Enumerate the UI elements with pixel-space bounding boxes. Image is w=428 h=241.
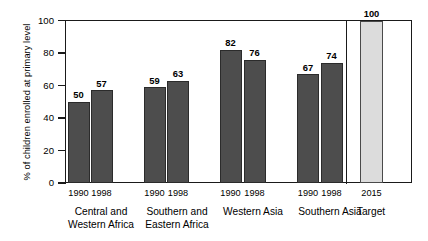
bar bbox=[68, 102, 90, 183]
y-axis-tick-label: 100 bbox=[8, 15, 54, 26]
target-column-divider bbox=[346, 20, 347, 184]
bar-value-label: 57 bbox=[82, 78, 122, 89]
y-axis-tick bbox=[58, 20, 66, 21]
y-axis-tick bbox=[58, 150, 66, 151]
bar bbox=[244, 60, 266, 184]
y-axis-tick bbox=[58, 52, 66, 53]
y-axis-tick-label: 0 bbox=[8, 177, 54, 188]
x-axis-year-label: 1998 bbox=[158, 188, 198, 198]
y-axis-tick-label: 40 bbox=[8, 112, 54, 123]
bar bbox=[297, 74, 319, 183]
group-label-line: Eastern Africa bbox=[127, 219, 227, 232]
x-axis-year-label: 1998 bbox=[312, 188, 352, 198]
y-axis-tick-label: 20 bbox=[8, 145, 54, 156]
y-axis-tick-label: 60 bbox=[8, 80, 54, 91]
y-axis-tick bbox=[58, 117, 66, 118]
bar bbox=[220, 50, 242, 183]
bar bbox=[167, 81, 189, 183]
y-axis-tick-label: 80 bbox=[8, 47, 54, 58]
y-axis-title: % of children enrolled at primary level bbox=[22, 12, 32, 192]
bar bbox=[360, 21, 383, 184]
y-axis-tick bbox=[58, 85, 66, 86]
x-axis-year-label: 1998 bbox=[235, 188, 275, 198]
bar-value-label: 76 bbox=[235, 47, 275, 58]
bar bbox=[91, 90, 113, 183]
enrollment-bar-chart: % of children enrolled at primary level … bbox=[0, 0, 428, 241]
bar bbox=[144, 87, 166, 183]
bar bbox=[321, 63, 343, 183]
x-axis-year-label: 1998 bbox=[82, 188, 122, 198]
x-axis-group-label: Target bbox=[321, 206, 421, 219]
bar-value-label: 63 bbox=[158, 68, 198, 79]
group-label-line: Target bbox=[321, 206, 421, 219]
bar-value-label: 74 bbox=[312, 50, 352, 61]
y-axis-tick bbox=[58, 182, 66, 183]
bar-value-label: 100 bbox=[352, 8, 392, 19]
x-axis-year-label: 2015 bbox=[352, 188, 392, 198]
